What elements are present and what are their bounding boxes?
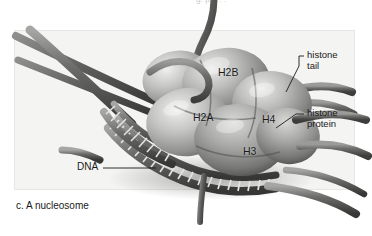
label-h2b: H2B xyxy=(218,66,238,78)
histone-tail-bottom xyxy=(200,176,204,222)
callout-histone-protein: histone protein xyxy=(307,108,338,130)
callout-histone-protein-line2: protein xyxy=(307,119,338,130)
figure-root: g. p. . . . xyxy=(0,0,372,236)
dna-strand-exit-bottom-right xyxy=(268,186,356,214)
figure-caption: c. A nucleosome xyxy=(16,200,89,211)
dna-strand-exit-left xyxy=(62,150,100,160)
label-dna: DNA xyxy=(77,161,98,173)
callout-histone-tail: histone tail xyxy=(307,50,338,72)
label-h4: H4 xyxy=(262,113,275,125)
label-h2a: H2A xyxy=(193,111,213,123)
label-h3: H3 xyxy=(243,145,256,157)
callout-histone-tail-line2: tail xyxy=(307,61,338,72)
